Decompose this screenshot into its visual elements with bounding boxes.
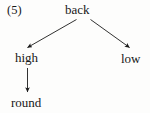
example-number-label: (5) bbox=[7, 4, 22, 17]
tree-node-low: low bbox=[121, 52, 141, 65]
edge-back-to-high bbox=[28, 20, 77, 48]
tree-node-high: high bbox=[15, 51, 38, 64]
tree-node-round: round bbox=[11, 96, 41, 109]
figure-canvas: (5) back high low round bbox=[0, 0, 150, 113]
tree-node-back: back bbox=[65, 3, 90, 16]
edge-back-to-low bbox=[91, 20, 130, 48]
